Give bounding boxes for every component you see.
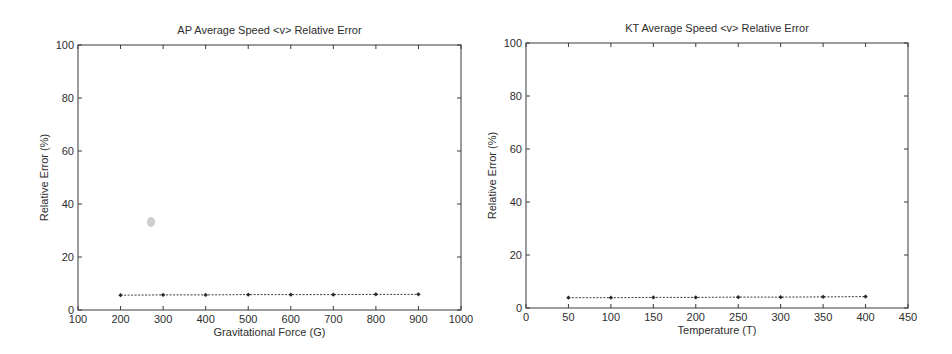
data-point-marker [118,293,122,297]
data-point-marker [246,292,250,296]
y-tick-label: 100 [56,39,74,51]
x-tick-label: 400 [856,311,874,323]
y-tick-label: 80 [510,90,522,102]
x-tick-label: 450 [899,311,917,323]
data-point-marker [863,294,867,298]
data-point-marker [203,293,207,297]
y-tick-label: 20 [510,249,522,261]
x-tick-label: 200 [111,313,129,325]
y-tick-label: 40 [62,198,74,210]
x-tick-label: 600 [282,313,300,325]
x-tick-label: 350 [814,311,832,323]
data-point-marker [609,295,613,299]
x-tick-label: 300 [771,311,789,323]
chart-ap-relative-error: AP Average Speed <v> Relative Error 1002… [38,24,473,338]
figure: AP Average Speed <v> Relative Error 1002… [0,0,952,354]
data-point-marker [374,292,378,296]
x-tick-label: 1000 [449,313,473,325]
y-tick-label: 0 [516,302,522,314]
figure-canvas: AP Average Speed <v> Relative Error 1002… [0,0,952,354]
y-axis: 020406080100 [504,37,908,314]
x-tick-label: 0 [523,311,529,323]
x-tick-label: 100 [602,311,620,323]
data-point-marker [821,295,825,299]
chart-title: KT Average Speed <v> Relative Error [625,22,809,34]
y-tick-label: 60 [62,145,74,157]
chart-kt-relative-error: KT Average Speed <v> Relative Error 0501… [486,22,917,336]
y-tick-label: 100 [504,37,522,49]
series-line [121,294,419,295]
data-point-marker [161,293,165,297]
y-tick-label: 80 [62,92,74,104]
data-point-marker [566,295,570,299]
y-axis-label: Relative Error (%) [486,132,498,219]
data-point-marker [289,292,293,296]
x-axis: 1002003004005006007008009001000 [69,45,473,325]
x-axis: 050100150200250300350400450 [523,43,917,323]
x-axis-label: Temperature (T) [678,324,757,336]
x-axis-label: Gravitational Force (G) [214,326,326,338]
data-point-marker [778,295,782,299]
data-point-marker [736,295,740,299]
x-tick-label: 700 [324,313,342,325]
x-tick-label: 300 [154,313,172,325]
plot-frame [78,45,461,310]
scan-smudge [147,217,155,227]
y-tick-label: 0 [68,304,74,316]
data-point-marker [651,295,655,299]
plot-frame [526,43,908,308]
y-tick-label: 60 [510,143,522,155]
x-tick-label: 500 [239,313,257,325]
y-tick-label: 20 [62,251,74,263]
x-tick-label: 50 [562,311,574,323]
x-tick-label: 800 [367,313,385,325]
x-tick-label: 400 [196,313,214,325]
y-tick-label: 40 [510,196,522,208]
data-series [118,292,420,297]
x-tick-label: 150 [644,311,662,323]
y-axis-label: Relative Error (%) [38,134,50,221]
y-axis: 020406080100 [56,39,461,316]
x-tick-label: 200 [687,311,705,323]
chart-title: AP Average Speed <v> Relative Error [177,24,362,36]
data-point-marker [694,295,698,299]
x-tick-label: 900 [409,313,427,325]
data-point-marker [331,292,335,296]
data-point-marker [416,292,420,296]
x-tick-label: 250 [729,311,747,323]
data-series [566,294,868,299]
